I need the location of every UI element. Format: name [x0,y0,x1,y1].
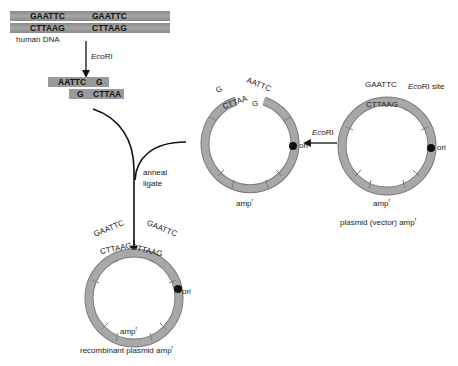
vector-ori-label: ori [437,143,446,152]
ecori-label-step1: EcoRI [91,52,113,61]
ecori-site-label: EcoRI site [408,82,444,91]
fragment-bottom-strand: G CTTAA [69,89,124,99]
fragment-top-strand: AATTC G [48,77,109,87]
ecori-label-step2: EcoRI [312,128,334,137]
vector-site-bottom: CTTAAG [366,100,398,109]
human-dna-bottom-strand: CTTAAG CTTAAG [10,23,170,33]
ligate-label: ligate [143,179,162,188]
ecori-site-top-2: GAATTC [92,11,127,21]
cut-plasmid-ring [205,101,297,189]
recombinant-plasmid-caption: recombinant plasmid ampr [80,344,173,355]
vector-amp-label: ampr [373,197,390,208]
vector-plasmid-caption: plasmid (vector) ampr [340,216,416,227]
recomb-amp-label: ampr [120,325,137,336]
vector-plasmid-ring [342,101,435,191]
ori-dot [289,142,297,150]
anneal-label: anneal [143,168,167,177]
vector-site-top: GAATTC [365,80,397,89]
ori-dot [174,285,182,293]
human-dna-top-strand: GAATTC GAATTC [10,11,170,21]
cut-right-end-bottom: G [252,99,258,108]
ecori-site-bottom-1: CTTAAG [30,23,65,33]
human-dna-label: human DNA [16,35,60,44]
ecori-site-bottom-2: CTTAAG [92,23,127,33]
recomb-ori-label: ori [182,287,191,296]
diagram-graphics [0,0,458,366]
cut-amp-label: ampr [236,197,253,208]
cut-ori-label: ori [299,141,308,150]
ecori-site-top-1: GAATTC [30,11,65,21]
ori-dot [427,144,435,152]
